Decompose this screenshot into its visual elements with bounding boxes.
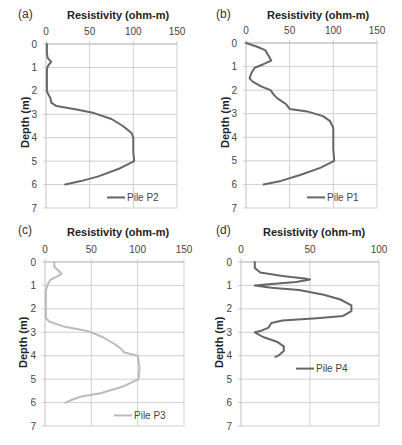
y-tick-label: 3 bbox=[31, 109, 37, 120]
y-tick-label: 4 bbox=[226, 350, 232, 361]
x-tick-label: 0 bbox=[243, 25, 249, 36]
plot-area: 01234567050100150Pile P2 bbox=[0, 0, 201, 222]
x-tick-label: 150 bbox=[169, 26, 186, 37]
y-tick-label: 1 bbox=[30, 280, 36, 291]
y-tick-label: 1 bbox=[226, 280, 232, 291]
legend-label: Pile P2 bbox=[127, 192, 159, 203]
x-tick-label: 0 bbox=[43, 26, 49, 37]
y-tick-label: 3 bbox=[30, 327, 36, 338]
y-tick-label: 6 bbox=[226, 397, 232, 408]
plot-area: 01234567050100Pile P4 bbox=[200, 220, 401, 445]
y-tick-label: 3 bbox=[226, 327, 232, 338]
x-tick-label: 150 bbox=[369, 25, 386, 36]
x-tick-label: 100 bbox=[371, 244, 388, 255]
y-tick-label: 4 bbox=[231, 132, 237, 143]
x-tick-label: 0 bbox=[238, 244, 244, 255]
x-tick-label: 150 bbox=[176, 244, 193, 255]
x-tick-label: 50 bbox=[84, 26, 96, 37]
chart-panel-c: (c) Resistivity (ohm-m) Depth (m) 012345… bbox=[0, 220, 201, 442]
y-tick-label: 2 bbox=[226, 303, 232, 314]
y-tick-label: 7 bbox=[30, 421, 36, 432]
y-tick-label: 6 bbox=[31, 179, 37, 190]
legend-label: Pile P1 bbox=[327, 192, 359, 203]
y-tick-label: 2 bbox=[231, 85, 237, 96]
y-tick-label: 0 bbox=[31, 39, 37, 50]
y-tick-label: 5 bbox=[30, 374, 36, 385]
y-tick-label: 1 bbox=[231, 61, 237, 72]
x-tick-label: 100 bbox=[129, 244, 146, 255]
chart-panel-a: (a) Resistivity (ohm-m) Depth (m) 012345… bbox=[0, 0, 201, 222]
y-tick-label: 2 bbox=[31, 85, 37, 96]
y-tick-label: 4 bbox=[31, 132, 37, 143]
y-tick-label: 2 bbox=[30, 303, 36, 314]
x-tick-label: 50 bbox=[304, 244, 316, 255]
series-line bbox=[255, 262, 352, 357]
y-tick-label: 0 bbox=[231, 38, 237, 49]
y-tick-label: 5 bbox=[31, 156, 37, 167]
plot-area: 01234567050100150Pile P3 bbox=[0, 220, 201, 445]
y-tick-label: 6 bbox=[30, 397, 36, 408]
x-tick-label: 50 bbox=[86, 244, 98, 255]
chart-panel-b: (b) Resistivity (ohm-m) Depth (m) 012345… bbox=[200, 0, 401, 222]
x-tick-label: 100 bbox=[125, 26, 142, 37]
y-tick-label: 5 bbox=[231, 155, 237, 166]
y-tick-label: 1 bbox=[31, 62, 37, 73]
plot-area: 01234567050100150Pile P1 bbox=[200, 0, 401, 222]
y-tick-label: 5 bbox=[226, 374, 232, 385]
x-tick-label: 100 bbox=[325, 25, 342, 36]
y-tick-label: 4 bbox=[30, 350, 36, 361]
legend-label: Pile P3 bbox=[134, 410, 166, 421]
y-tick-label: 7 bbox=[31, 203, 37, 214]
y-tick-label: 0 bbox=[30, 257, 36, 268]
y-tick-label: 7 bbox=[231, 203, 237, 214]
y-tick-label: 7 bbox=[226, 421, 232, 432]
y-tick-label: 6 bbox=[231, 179, 237, 190]
x-tick-label: 0 bbox=[42, 244, 48, 255]
x-tick-label: 50 bbox=[284, 25, 296, 36]
chart-panel-d: (d) Resistivity (ohm-m) Depth (m) 012345… bbox=[200, 220, 401, 442]
y-tick-label: 3 bbox=[231, 108, 237, 119]
y-tick-label: 0 bbox=[226, 257, 232, 268]
legend-label: Pile P4 bbox=[316, 363, 348, 374]
